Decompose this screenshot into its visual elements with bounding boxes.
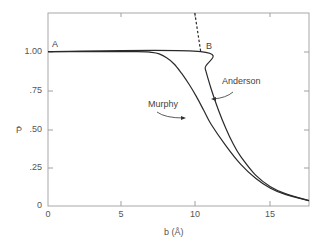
y-tick-label: 0: [12, 201, 42, 210]
y-ticks-right: [304, 52, 309, 168]
series-anderson-extrapolation: [195, 13, 201, 52]
y-axis-title: P̄: [16, 126, 22, 135]
x-ticks-bottom: [121, 201, 270, 206]
series-murphy: [48, 52, 309, 201]
x-tick-label: 15: [260, 210, 280, 219]
x-axis-title: b (Å): [164, 228, 184, 237]
y-tick-label: .75: [12, 86, 42, 95]
plot-frame: [48, 13, 309, 206]
y-ticks-left: [48, 52, 53, 168]
series-layer: [48, 13, 309, 201]
series-anderson: [48, 50, 309, 200]
anderson-label: Anderson: [222, 77, 261, 86]
murphy-label: Murphy: [148, 100, 178, 109]
point-b-label: B: [206, 42, 212, 51]
point-a-label: A: [52, 40, 58, 49]
y-tick-label: 1.00: [12, 47, 42, 56]
x-tick-label: 10: [185, 210, 205, 219]
murphy-leader-arrow: [157, 112, 184, 118]
murphy-arrowhead-icon: [181, 116, 186, 120]
y-tick-label: .25: [12, 163, 42, 172]
x-tick-label: 5: [111, 210, 131, 219]
x-tick-label: 0: [38, 210, 58, 219]
